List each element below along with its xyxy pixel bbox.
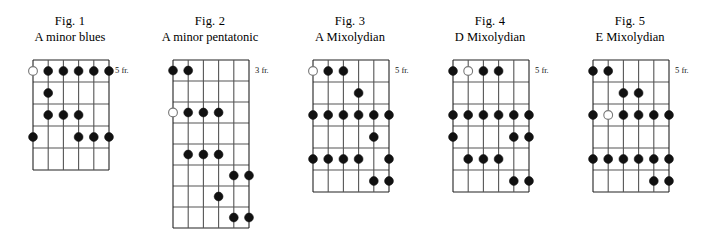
fretboard-container: 5 fr. [0,52,140,222]
note-marker [324,155,333,164]
note-marker [59,67,68,76]
note-marker [369,111,378,120]
note-marker [339,67,348,76]
figure-label: Fig. 4 [475,14,505,29]
note-marker [449,133,458,142]
note-marker [339,155,348,164]
note-marker [449,111,458,120]
scale-name: A Mixolydian [315,29,385,45]
note-marker [74,133,83,142]
scale-name: A minor blues [35,29,106,45]
root-note-marker [169,108,178,117]
note-marker [509,111,518,120]
note-marker [229,213,238,222]
note-marker [385,111,394,120]
note-marker [229,171,238,180]
note-marker [199,150,208,159]
figure-2: Fig. 2A minor pentatonic3 fr. [140,14,280,222]
figure-5: Fig. 5E Mixolydian5 fr. [560,14,700,222]
fretboard-container: 5 fr. [280,52,420,222]
fretboard-container: 5 fr. [420,52,560,222]
note-marker [354,89,363,98]
figure-row: Fig. 1A minor blues5 fr.Fig. 2A minor pe… [0,0,726,222]
note-marker [649,111,658,120]
note-marker [525,111,534,120]
figure-1: Fig. 1A minor blues5 fr. [0,14,140,222]
note-marker [449,67,458,76]
note-marker [509,133,518,142]
note-marker [245,171,254,180]
note-marker [604,67,613,76]
note-marker [44,89,53,98]
note-marker [74,111,83,120]
note-marker [589,155,598,164]
note-marker [649,177,658,186]
note-marker [199,108,208,117]
fret-position-label: 5 fr. [115,66,129,75]
fretboard-diagram-2 [140,52,280,242]
note-marker [309,111,318,120]
note-marker [354,155,363,164]
note-marker [385,155,394,164]
note-marker [214,192,223,201]
note-marker [665,155,674,164]
note-marker [634,89,643,98]
note-marker [464,111,473,120]
note-marker [89,67,98,76]
fret-position-label: 5 fr. [395,66,409,75]
note-marker [619,89,628,98]
note-marker [214,150,223,159]
figure-4: Fig. 4D Mixolydian5 fr. [420,14,560,222]
note-marker [649,155,658,164]
fret-position-label: 5 fr. [535,66,549,75]
note-marker [509,177,518,186]
fretboard-container: 3 fr. [140,52,280,222]
note-marker [604,155,613,164]
figure-label: Fig. 3 [335,14,365,29]
note-marker [184,66,193,75]
note-marker [494,67,503,76]
root-note-marker [309,67,318,76]
note-marker [369,177,378,186]
note-marker [464,155,473,164]
note-marker [309,155,318,164]
fret-position-label: 5 fr. [675,66,689,75]
root-note-marker [604,111,613,120]
note-marker [324,111,333,120]
scale-name: A minor pentatonic [162,29,259,45]
fretboard-diagram-3 [280,52,420,206]
note-marker [479,67,488,76]
note-marker [589,67,598,76]
note-marker [494,111,503,120]
note-marker [184,150,193,159]
note-marker [619,155,628,164]
fretboard-diagram-5 [560,52,700,206]
note-marker [634,111,643,120]
note-marker [105,67,114,76]
fret-position-label: 3 fr. [255,66,269,75]
note-marker [245,213,254,222]
note-marker [74,67,83,76]
note-marker [665,177,674,186]
note-marker [385,177,394,186]
note-marker [525,133,534,142]
note-marker [214,108,223,117]
note-marker [665,111,674,120]
note-marker [479,111,488,120]
note-marker [184,108,193,117]
note-marker [59,111,68,120]
root-note-marker [29,67,38,76]
note-marker [44,67,53,76]
figure-3: Fig. 3A Mixolydian5 fr. [280,14,420,222]
note-marker [494,155,503,164]
note-marker [589,111,598,120]
note-marker [354,111,363,120]
scale-name: D Mixolydian [455,29,525,45]
figure-label: Fig. 1 [55,14,85,29]
note-marker [105,133,114,142]
note-marker [634,155,643,164]
note-marker [525,177,534,186]
figure-label: Fig. 5 [615,14,645,29]
note-marker [339,111,348,120]
root-note-marker [464,67,473,76]
